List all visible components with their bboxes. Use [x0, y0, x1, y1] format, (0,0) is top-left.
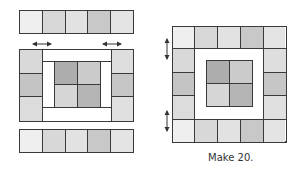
strip-square [20, 130, 43, 152]
press-arrow-icon-up [163, 38, 171, 60]
strip-square [20, 11, 43, 33]
side-square [263, 48, 287, 73]
strip-square [88, 130, 111, 152]
strip-square [241, 27, 264, 49]
side-square [110, 96, 134, 122]
make-count-caption: Make 20. [208, 152, 253, 163]
top-row [172, 26, 287, 50]
side-square [110, 73, 134, 98]
top-strip-exploded [19, 10, 134, 34]
strip-square [66, 130, 89, 152]
side-square [172, 95, 196, 120]
white-frame-inner [42, 61, 112, 108]
center-square [206, 60, 230, 84]
center-square [206, 83, 230, 107]
center-square [229, 60, 253, 84]
strip-square [195, 120, 218, 142]
strip-square [43, 130, 66, 152]
side-square [263, 95, 287, 120]
center-square [229, 83, 253, 107]
strip-square [66, 11, 89, 33]
strip-square [173, 120, 196, 142]
side-square [172, 72, 196, 97]
side-square [110, 49, 134, 74]
strip-square [218, 27, 241, 49]
side-square [172, 48, 196, 73]
press-arrow-icon-left [32, 40, 52, 48]
strip-square [218, 120, 241, 142]
press-arrow-icon-right [102, 40, 122, 48]
side-square [19, 49, 43, 74]
bottom-strip-exploded [19, 129, 134, 153]
strip-square [195, 27, 218, 49]
strip-square [264, 120, 286, 142]
strip-square [111, 11, 133, 33]
strip-square [173, 27, 196, 49]
side-square [19, 96, 43, 122]
strip-square [88, 11, 111, 33]
press-arrow-icon-down [163, 110, 171, 132]
side-square [19, 73, 43, 98]
middle-section-exploded [19, 49, 134, 122]
strip-square [241, 120, 264, 142]
strip-square [111, 130, 133, 152]
finished-block [172, 26, 287, 142]
bottom-row [172, 119, 287, 143]
strip-square [264, 27, 286, 49]
strip-square [43, 11, 66, 33]
side-square [263, 72, 287, 97]
